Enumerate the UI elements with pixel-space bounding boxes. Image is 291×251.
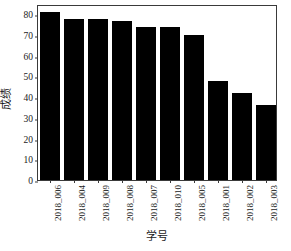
- plot-area: 01020304050607080 2018_0062018_0042018_0…: [37, 5, 277, 181]
- bar: [88, 19, 107, 181]
- bar-series: [38, 6, 276, 180]
- x-tick-mark: [170, 180, 171, 183]
- bar: [256, 105, 275, 180]
- x-tick-label: 2018_007: [150, 185, 159, 221]
- x-tick-label: 2018_008: [126, 185, 135, 221]
- bar: [136, 27, 155, 180]
- bar: [232, 93, 251, 180]
- bar: [160, 27, 179, 180]
- bar: [64, 19, 83, 181]
- x-tick-mark: [98, 180, 99, 183]
- x-tick-label: 2018_002: [246, 185, 255, 221]
- bar-chart-figure: 01020304050607080 2018_0062018_0042018_0…: [0, 0, 291, 251]
- x-tick-label: 2018_004: [78, 185, 87, 221]
- x-tick-label: 2018_006: [54, 185, 63, 221]
- y-tick-mark: [35, 37, 38, 38]
- bar: [112, 21, 131, 180]
- x-tick-label: 2018_001: [222, 185, 231, 221]
- x-tick-label: 2018_003: [270, 185, 279, 221]
- x-tick-label: 2018_009: [102, 185, 111, 221]
- y-axis-title: 成绩: [1, 69, 12, 129]
- y-tick-mark: [35, 140, 38, 141]
- x-axis-title: 学号: [37, 231, 277, 242]
- x-tick-mark: [242, 180, 243, 183]
- y-tick-mark: [35, 182, 38, 183]
- x-tick-label: 2018_005: [198, 185, 207, 221]
- bar: [184, 35, 203, 180]
- x-tick-mark: [146, 180, 147, 183]
- y-tick-mark: [35, 16, 38, 17]
- x-tick-mark: [50, 180, 51, 183]
- y-tick-mark: [35, 99, 38, 100]
- x-tick-mark: [74, 180, 75, 183]
- x-tick-mark: [122, 180, 123, 183]
- x-tick-mark: [194, 180, 195, 183]
- y-tick-mark: [35, 119, 38, 120]
- y-tick-mark: [35, 78, 38, 79]
- y-tick-mark: [35, 161, 38, 162]
- bar: [40, 12, 59, 180]
- x-tick-label: 2018_010: [174, 185, 183, 221]
- x-tick-mark: [266, 180, 267, 183]
- x-tick-mark: [218, 180, 219, 183]
- y-tick-mark: [35, 57, 38, 58]
- bar: [208, 81, 227, 180]
